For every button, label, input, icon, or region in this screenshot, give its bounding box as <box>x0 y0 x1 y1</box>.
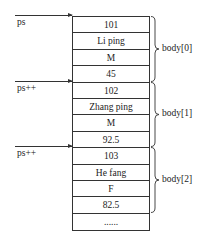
cell-name-1: Zhang ping <box>73 99 149 115</box>
pointer-label-0: ps <box>17 17 25 27</box>
pointer-label-1: ps++ <box>17 83 36 93</box>
memory-table: 101 Li ping M 45 102 Zhang ping M 92.5 1… <box>72 16 150 231</box>
group-label-2: body[2] <box>162 174 192 184</box>
cell-num-2: 103 <box>73 148 149 164</box>
cell-sex-2: F <box>73 181 149 197</box>
group-label-0: body[0] <box>162 43 192 53</box>
cell-sex-1: M <box>73 115 149 131</box>
pointer-arrow-1 <box>15 81 72 82</box>
cell-score-1: 92.5 <box>73 132 149 148</box>
brace-icon-2 <box>151 147 161 213</box>
brace-icon-1 <box>151 82 161 147</box>
cell-score-2: 82.5 <box>73 197 149 213</box>
cell-score-0: 45 <box>73 66 149 82</box>
cell-name-0: Li ping <box>73 33 149 49</box>
brace-icon-0 <box>151 16 161 82</box>
pointer-label-2: ps++ <box>17 148 36 158</box>
cell-num-0: 101 <box>73 17 149 33</box>
cell-ellipsis: ...... <box>73 214 149 230</box>
pointer-arrow-2 <box>15 146 72 147</box>
group-label-1: body[1] <box>162 108 192 118</box>
cell-num-1: 102 <box>73 83 149 99</box>
cell-sex-0: M <box>73 50 149 66</box>
pointer-arrow-0 <box>15 15 72 16</box>
cell-name-2: He fang <box>73 165 149 181</box>
